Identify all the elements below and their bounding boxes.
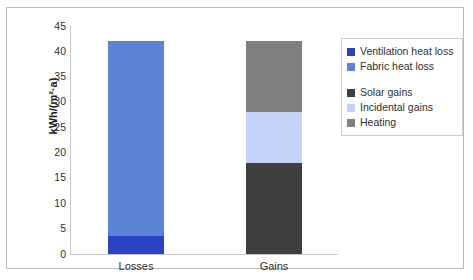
x-tick-label-losses: Losses	[76, 260, 196, 272]
legend-label: Heating	[360, 117, 396, 128]
legend-item-fabric-heat-loss[interactable]: Fabric heat loss	[347, 59, 458, 74]
legend-item-ventilation-heat-loss[interactable]: Ventilation heat loss	[347, 44, 458, 59]
legend-item-solar-gains[interactable]: Solar gains	[347, 85, 458, 100]
y-tick-label: 35	[40, 71, 66, 82]
plot-area: Losses Gains	[70, 26, 338, 254]
legend-swatch-icon	[347, 48, 355, 56]
y-tick-label: 45	[40, 21, 66, 32]
x-tick-label-gains: Gains	[214, 260, 334, 272]
legend-swatch-icon	[347, 104, 355, 112]
bar-segment-solar-gains[interactable]	[246, 163, 302, 254]
y-axis-tick-labels: 45 40 35 30 25 20 15 10 5 0	[36, 26, 66, 254]
legend-item-incidental-gains[interactable]: Incidental gains	[347, 100, 458, 115]
y-tick-label: 20	[40, 147, 66, 158]
bar-segment-ventilation-heat-loss[interactable]	[108, 236, 164, 254]
x-axis-line	[70, 254, 338, 255]
y-tick-label: 15	[40, 172, 66, 183]
y-tick-label: 5	[40, 223, 66, 234]
legend-item-heating[interactable]: Heating	[347, 115, 458, 130]
bar-segment-fabric-heat-loss[interactable]	[108, 41, 164, 236]
bar-gains[interactable]	[246, 41, 302, 254]
bar-segment-incidental-gains[interactable]	[246, 112, 302, 163]
y-tick-label: 30	[40, 96, 66, 107]
legend-spacer	[347, 74, 458, 85]
bar-segment-heating[interactable]	[246, 41, 302, 112]
legend-label: Fabric heat loss	[360, 61, 434, 72]
y-tick-label: 25	[40, 122, 66, 133]
y-tick-label: 10	[40, 198, 66, 209]
y-axis-line	[70, 26, 71, 254]
y-tick-label: 40	[40, 46, 66, 57]
legend-swatch-icon	[347, 63, 355, 71]
legend: Ventilation heat loss Fabric heat loss S…	[341, 38, 463, 136]
bar-losses[interactable]	[108, 41, 164, 254]
legend-label: Incidental gains	[360, 102, 433, 113]
legend-label: Solar gains	[360, 87, 413, 98]
y-tick-label: 0	[40, 249, 66, 260]
legend-label: Ventilation heat loss	[360, 46, 453, 57]
legend-swatch-icon	[347, 89, 355, 97]
legend-swatch-icon	[347, 119, 355, 127]
chart-frame: kWh/(m²·a) 45 40 35 30 25 20 15 10 5 0 L…	[6, 7, 464, 269]
